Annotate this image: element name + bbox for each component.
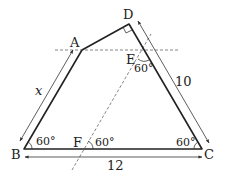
geometry-diagram: A B C D E F 60° 60° 60° 60° x 10 12	[0, 0, 227, 182]
dimension-arrow-ab	[20, 50, 73, 141]
label-f: F	[73, 135, 82, 150]
dimension-arrow-dc	[138, 21, 209, 143]
label-a: A	[69, 35, 80, 50]
angle-arc-e	[138, 59, 149, 61]
label-c: C	[204, 147, 214, 162]
length-label-ab: x	[35, 83, 43, 98]
angle-arc-f	[88, 141, 93, 149]
label-b: B	[11, 147, 21, 162]
angle-label-e: 60°	[134, 62, 154, 75]
angle-label-b: 60°	[36, 135, 56, 148]
angle-label-f: 60°	[95, 136, 115, 149]
length-label-bc: 12	[107, 158, 124, 173]
angle-label-c: 60°	[176, 136, 196, 149]
angle-arc-b	[28, 142, 32, 149]
length-label-dc: 10	[175, 74, 192, 89]
label-d: D	[123, 7, 133, 22]
